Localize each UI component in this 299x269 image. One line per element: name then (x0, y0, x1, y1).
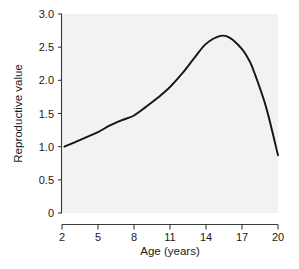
x-tick-label: 2 (59, 231, 65, 243)
y-tick-label: 1.5 (39, 108, 54, 120)
y-tick-label: 2.0 (39, 74, 54, 86)
x-tick-label: 11 (164, 231, 175, 243)
reproductive-value-line-chart: 00.51.01.52.02.53.0 Reproductive value 2… (0, 0, 299, 269)
x-axis-title: Age (years) (140, 245, 200, 257)
chart-figure: 00.51.01.52.02.53.0 Reproductive value 2… (0, 0, 299, 269)
x-tick-label: 8 (131, 231, 137, 243)
x-tick-label: 20 (272, 231, 284, 243)
x-tick-marks (62, 225, 278, 230)
y-tick-labels: 00.51.01.52.02.53.0 (39, 8, 54, 219)
y-axis-title: Reproductive value (12, 64, 24, 162)
y-tick-label: 0 (48, 207, 54, 219)
y-tick-label: 3.0 (39, 8, 54, 20)
x-tick-label: 17 (236, 231, 248, 243)
x-tick-label: 5 (95, 231, 101, 243)
y-axis: 00.51.01.52.02.53.0 Reproductive value (12, 8, 62, 219)
y-tick-label: 0.5 (39, 174, 54, 186)
x-tick-label: 14 (200, 231, 212, 243)
plot-panel-background (62, 14, 278, 213)
x-axis: 25811141720 Age (years) (59, 225, 284, 258)
y-tick-label: 1.0 (39, 141, 54, 153)
y-tick-label: 2.5 (39, 41, 54, 53)
x-tick-labels: 25811141720 (59, 231, 284, 243)
